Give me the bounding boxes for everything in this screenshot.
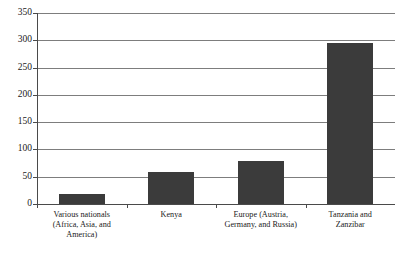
y-tick-mark: [33, 95, 37, 96]
y-tick-label: 50: [0, 172, 32, 182]
category-label-line: Germany, and Russia): [216, 220, 306, 230]
category-label-line: Various nationals: [37, 210, 127, 220]
y-tick-mark: [33, 13, 37, 14]
category-label-line: Kenya: [127, 210, 217, 220]
category-label-line: Europe (Austria,: [216, 210, 306, 220]
y-tick-label: 0: [0, 199, 32, 209]
y-tick-mark: [33, 177, 37, 178]
x-tick-mark: [127, 204, 128, 208]
y-tick-label: 100: [0, 144, 32, 154]
category-label: Kenya: [127, 210, 217, 220]
category-label: Tanzania andZanzibar: [306, 210, 396, 230]
x-tick-mark: [37, 204, 38, 208]
gridline: [37, 13, 395, 14]
category-label: Europe (Austria,Germany, and Russia): [216, 210, 306, 230]
bar-chart: 050100150200250300350 Various nationals(…: [0, 0, 412, 265]
y-tick-mark: [33, 149, 37, 150]
category-label-line: (Africa, Asia, and: [37, 220, 127, 230]
category-label: Various nationals(Africa, Asia, andAmeri…: [37, 210, 127, 241]
x-tick-mark: [306, 204, 307, 208]
category-label-line: Tanzania and: [306, 210, 396, 220]
y-tick-mark: [33, 40, 37, 41]
y-tick-label: 350: [0, 8, 32, 18]
y-tick-label: 300: [0, 35, 32, 45]
y-axis-line: [37, 13, 38, 205]
category-label-line: Zanzibar: [306, 220, 396, 230]
category-label-line: America): [37, 230, 127, 240]
x-tick-mark: [216, 204, 217, 208]
bar: [238, 161, 284, 204]
bar: [148, 172, 194, 204]
y-tick-mark: [33, 68, 37, 69]
y-tick-label: 200: [0, 90, 32, 100]
y-tick-mark: [33, 122, 37, 123]
y-tick-label: 150: [0, 117, 32, 127]
bar: [327, 43, 373, 204]
y-tick-label: 250: [0, 63, 32, 73]
bar: [59, 194, 105, 204]
gridline: [37, 40, 395, 41]
